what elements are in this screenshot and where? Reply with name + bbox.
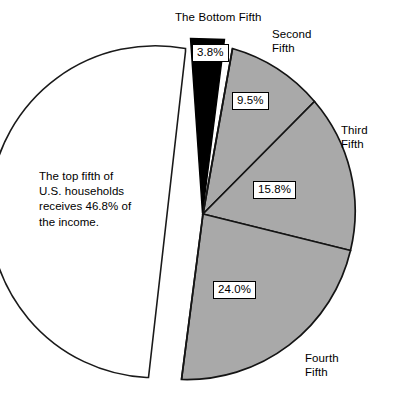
slice-value-fourth-fifth: 24.0% (213, 281, 256, 299)
slice-value-bottom-fifth: 3.8% (192, 44, 229, 62)
slice-label-fourth-fifth: Fourth Fifth (305, 352, 339, 379)
slice-label-bottom-fifth: The Bottom Fifth (175, 11, 262, 25)
pie-chart: The Bottom Fifth Second Fifth Third Fift… (0, 0, 394, 399)
slice-label-second-fifth: Second Fifth (272, 28, 312, 55)
top-fifth-callout-text: The top fifth of U.S. households receive… (39, 169, 159, 230)
slice-value-second-fifth: 9.5% (232, 92, 269, 110)
slice-value-third-fifth: 15.8% (253, 181, 296, 199)
slice-label-third-fifth: Third Fifth (341, 124, 368, 151)
